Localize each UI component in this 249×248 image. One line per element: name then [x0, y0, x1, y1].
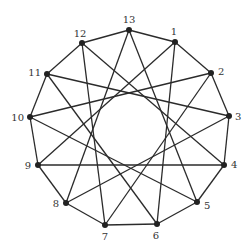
edge-4-5 [197, 165, 224, 202]
node-2 [208, 70, 214, 76]
edge-7-12 [82, 43, 105, 225]
node-label-12: 12 [74, 28, 87, 39]
node-12 [79, 40, 85, 46]
edge-7-8 [66, 203, 105, 225]
edges-group [30, 30, 229, 225]
node-13 [126, 27, 132, 33]
node-label-11: 11 [28, 67, 41, 78]
edge-5-6 [157, 202, 197, 224]
node-label-3: 3 [235, 111, 241, 122]
edge-10-2 [30, 73, 211, 117]
node-3 [226, 113, 232, 119]
edge-10-11 [30, 74, 47, 117]
node-10 [27, 114, 33, 120]
edge-12-13 [82, 30, 129, 43]
edge-11-12 [47, 43, 82, 74]
edge-9-10 [30, 117, 38, 165]
edge-1-2 [175, 42, 211, 73]
edge-2-3 [211, 73, 229, 116]
edge-3-8 [66, 116, 229, 203]
node-label-10: 10 [11, 112, 24, 123]
node-label-1: 1 [171, 26, 177, 37]
node-6 [154, 221, 160, 227]
edge-13-1 [129, 30, 175, 42]
node-4 [221, 162, 227, 168]
node-11 [44, 71, 50, 77]
node-8 [63, 200, 69, 206]
node-label-2: 2 [218, 66, 224, 77]
node-label-8: 8 [53, 198, 59, 209]
edge-3-4 [224, 116, 229, 165]
node-label-4: 4 [231, 159, 237, 170]
node-label-13: 13 [123, 14, 136, 25]
edge-9-1 [38, 42, 175, 165]
edge-11-3 [47, 74, 229, 116]
node-label-5: 5 [204, 200, 210, 211]
edge-6-7 [105, 224, 157, 225]
node-5 [194, 199, 200, 205]
node-label-6: 6 [153, 230, 159, 241]
edge-1-6 [157, 42, 175, 224]
node-1 [172, 39, 178, 45]
node-7 [102, 222, 108, 228]
node-label-9: 9 [25, 160, 31, 171]
node-label-7: 7 [102, 231, 108, 242]
node-9 [35, 162, 41, 168]
circulant-graph-diagram: 12345678910111213 [0, 0, 249, 248]
